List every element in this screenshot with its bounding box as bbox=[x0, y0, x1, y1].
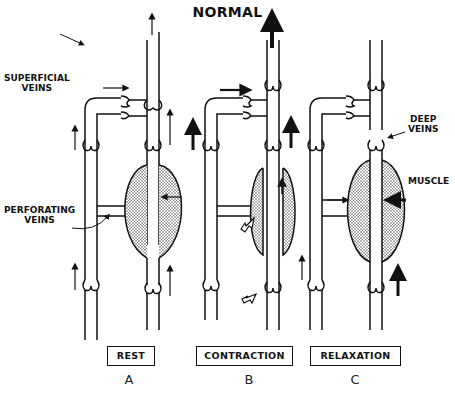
label-line: DEEP bbox=[408, 114, 438, 124]
label-deep-veins: DEEP VEINS bbox=[408, 114, 438, 134]
label-line: VEINS bbox=[408, 124, 438, 134]
panel-letter-b: B bbox=[239, 372, 259, 387]
label-line: SUPERFICIAL bbox=[4, 73, 70, 83]
phase-label-rest: REST bbox=[107, 346, 155, 366]
panel-letter-c: C bbox=[345, 372, 365, 387]
phase-label-relaxation: RELAXATION bbox=[310, 346, 401, 366]
label-muscle: MUSCLE bbox=[408, 176, 449, 186]
label-line: PERFORATING bbox=[4, 205, 75, 215]
phase-label-contraction: CONTRACTION bbox=[196, 346, 293, 366]
label-superficial-veins: SUPERFICIAL VEINS bbox=[4, 73, 70, 93]
label-perforating-veins: PERFORATING VEINS bbox=[4, 205, 75, 225]
panel-c-relaxation bbox=[308, 40, 405, 330]
venous-valve-diagram bbox=[0, 0, 455, 394]
panel-b-flow-arrows bbox=[193, 20, 302, 303]
label-line: VEINS bbox=[4, 83, 70, 93]
panel-a-rest bbox=[83, 32, 182, 340]
panel-letter-a: A bbox=[119, 372, 139, 387]
diagram-title: NORMAL bbox=[0, 4, 455, 20]
label-line: VEINS bbox=[4, 215, 75, 225]
